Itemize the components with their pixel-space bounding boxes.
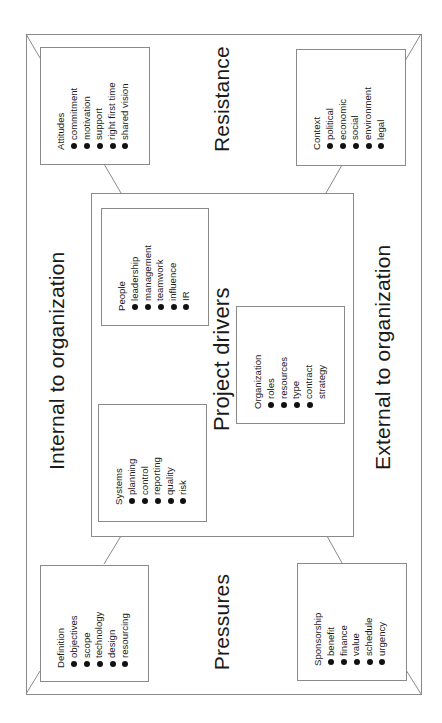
list-item: resources	[278, 355, 291, 409]
list-item: political	[324, 87, 337, 150]
systems-list: Systems planning control reporting quali…	[113, 457, 190, 505]
organization-title: Organization	[252, 355, 265, 409]
bullet-icon	[171, 304, 177, 310]
bullet-icon	[110, 661, 116, 667]
list-item: roles	[265, 355, 278, 409]
list-item: benefit	[325, 613, 338, 666]
people-title: People	[116, 245, 129, 311]
bullet-icon	[155, 498, 161, 504]
list-item: value	[350, 613, 363, 666]
bullet-icon	[122, 661, 128, 667]
list-item: strategy	[316, 355, 329, 409]
attitudes-title: Attitudes	[55, 82, 68, 150]
organization-list: Organization roles resources type contra…	[252, 355, 329, 409]
bullet-icon	[327, 143, 333, 149]
list-item: influence	[167, 245, 180, 311]
definition-title: Definition	[55, 612, 68, 668]
label-internal-to-organization: Internal to organization	[45, 260, 69, 470]
people-list: People leadership management teamwork in…	[116, 245, 193, 311]
bullet-icon	[340, 143, 346, 149]
bullet-icon	[367, 659, 373, 665]
list-item: legal	[375, 87, 388, 150]
bullet-icon	[281, 402, 287, 408]
bullet-icon	[71, 143, 77, 149]
bullet-icon	[294, 402, 300, 408]
list-item: right first time	[106, 82, 119, 150]
bullet-icon	[142, 498, 148, 504]
bullet-icon	[110, 143, 116, 149]
list-item: planning	[126, 457, 139, 505]
list-item: environment	[362, 87, 375, 150]
bullet-icon	[71, 661, 77, 667]
bullet-icon	[84, 661, 90, 667]
list-item: control	[139, 457, 152, 505]
bullet-icon	[328, 659, 334, 665]
bullet-icon	[379, 659, 385, 665]
bullet-icon	[145, 304, 151, 310]
bullet-icon	[168, 498, 174, 504]
list-item: objectives	[68, 612, 81, 668]
bullet-icon	[183, 304, 189, 310]
label-external-to-organization: External to organization	[371, 260, 395, 470]
bullet-icon	[341, 659, 347, 665]
list-item: social	[349, 87, 362, 150]
context-title: Context	[311, 87, 324, 150]
list-item: finance	[338, 613, 351, 666]
list-item: urgency	[376, 613, 389, 666]
bullet-icon	[122, 143, 128, 149]
list-item: quality	[164, 457, 177, 505]
bullet-icon	[132, 304, 138, 310]
bullet-icon	[366, 143, 372, 149]
list-item: reporting	[151, 457, 164, 505]
bullet-icon	[353, 143, 359, 149]
bullet-icon	[180, 498, 186, 504]
list-item: commitment	[68, 82, 81, 150]
list-item: support	[93, 82, 106, 150]
bullet-icon	[129, 498, 135, 504]
list-item: shared vision	[119, 82, 132, 150]
list-item: contract	[303, 355, 316, 409]
list-item: schedule	[363, 613, 376, 666]
attitudes-list: Attitudes commitment motivation support …	[55, 82, 132, 150]
bullet-icon	[97, 661, 103, 667]
sponsorship-list: Sponsorship benefit finance value schedu…	[312, 613, 389, 666]
list-item: economic	[337, 87, 350, 150]
list-item: resourcing	[119, 612, 132, 668]
label-resistance: Resistance	[210, 52, 234, 152]
bullet-icon	[378, 143, 384, 149]
label-pressures: Pressures	[210, 572, 234, 672]
context-list: Context political economic social enviro…	[311, 87, 388, 150]
list-item: risk	[177, 457, 190, 505]
list-item: technology	[93, 612, 106, 668]
definition-list: Definition objectives scope technology d…	[55, 612, 132, 668]
systems-title: Systems	[113, 457, 126, 505]
list-item: scope	[81, 612, 94, 668]
bullet-icon	[354, 659, 360, 665]
sponsorship-title: Sponsorship	[312, 613, 325, 666]
list-item: teamwork	[154, 245, 167, 311]
bullet-icon	[158, 304, 164, 310]
list-item: motivation	[81, 82, 94, 150]
list-item: management	[142, 245, 155, 311]
bullet-icon	[307, 402, 313, 408]
list-item: leadership	[129, 245, 142, 311]
list-item: IR	[180, 245, 193, 311]
bullet-icon	[268, 402, 274, 408]
bullet-icon	[84, 143, 90, 149]
list-item: type	[290, 355, 303, 409]
list-item: design	[106, 612, 119, 668]
bullet-icon	[97, 143, 103, 149]
label-project-drivers: Project drivers	[209, 301, 235, 431]
